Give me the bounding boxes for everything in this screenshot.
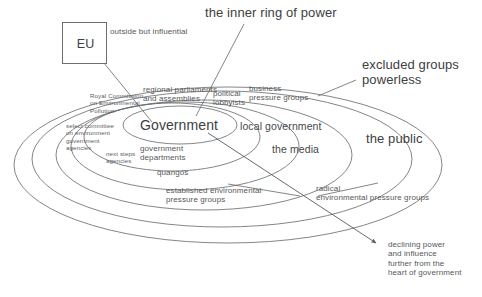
label-select-committee: select committee on environment governme… [66, 122, 114, 151]
label-quangos: quangos [157, 168, 188, 177]
ring-excluded-boundary [32, 91, 412, 227]
label-local-government: local government [240, 120, 322, 132]
label-excluded-groups: excluded groups powerless [362, 57, 459, 88]
label-regional-parliaments: regional parliaments and assemblies [143, 85, 217, 104]
label-established-pressure-groups: established environmental pressure group… [166, 186, 261, 205]
label-inner-ring-of-power: the inner ring of power [205, 5, 337, 20]
label-eu-annotation: outside but influential [110, 27, 187, 36]
label-next-steps-agencies: next steps agencies [106, 150, 135, 165]
label-government-departments: government departments [140, 144, 186, 163]
label-declining-power: declining power and influence further fr… [388, 240, 462, 278]
eu-box[interactable]: EU [62, 22, 107, 64]
label-the-media: the media [272, 143, 319, 155]
diagram-canvas: EU outside but influential the inner rin… [0, 0, 482, 297]
label-royal-commission: Royal Commission on Environmental Pollut… [90, 92, 143, 114]
label-the-public: the public [366, 131, 423, 146]
label-business-pressure-groups: business pressure groups [249, 84, 308, 103]
label-radical-pressure-groups: radical environmental pressure groups [316, 184, 429, 203]
connector-excluded-groups-pointer [318, 80, 356, 96]
label-political-lobbyists: political lobbyists [213, 89, 245, 108]
label-government: Government [140, 117, 218, 134]
eu-box-label: EU [63, 23, 108, 65]
